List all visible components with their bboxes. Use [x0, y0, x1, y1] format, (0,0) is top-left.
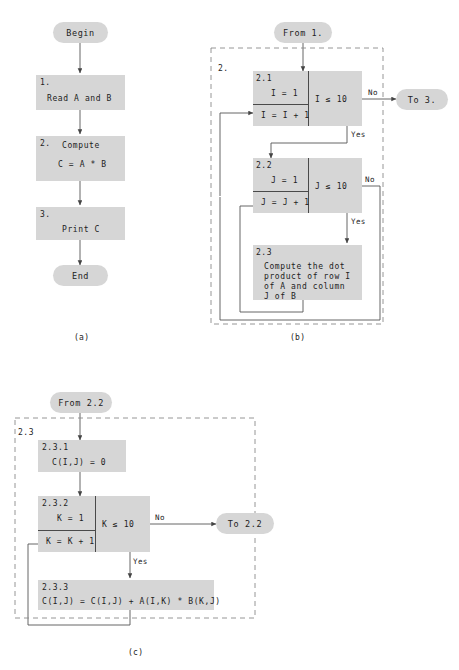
loop-2-1-number: 2.1 [256, 74, 272, 83]
process-2-3-1-text: C(I,J) = 0 [52, 457, 106, 468]
connector-from-1: From 1. [274, 22, 332, 43]
process-1-text: Read A and B [47, 93, 112, 104]
process-2-3-3-text: C(I,J) = C(I,J) + A(I,K) * B(K,J) [42, 596, 221, 607]
process-1-number: 1. [40, 78, 51, 87]
loop-2-2-no-label: No [365, 175, 375, 184]
process-2-line2: C = A * B [58, 159, 107, 170]
loop-2-3-2-condition: K ≤ 10 [102, 519, 135, 530]
process-2-number: 2. [40, 139, 51, 148]
process-2-3-line4: J of B [264, 291, 297, 302]
connector-to-2-2: To 2.2 [216, 513, 274, 534]
loop-2-1-yes-label: Yes [351, 130, 366, 139]
loop-2-1-init: I = 1 [271, 88, 298, 99]
caption-b: (b) [290, 333, 305, 342]
loop-2-3-2-init: K = 1 [57, 513, 84, 524]
process-3-text: Print C [62, 224, 100, 235]
loop-2-2-init: J = 1 [271, 175, 298, 186]
loop-box-2-2-horizontal-divider [253, 191, 309, 192]
loop-2-2-condition: J ≤ 10 [315, 181, 348, 192]
connector-to-2-2-label: To 2.2 [228, 519, 262, 529]
terminator-end-label: End [72, 271, 89, 281]
loop-2-3-2-no-label: No [155, 513, 165, 522]
loop-2-2-number: 2.2 [256, 161, 272, 170]
loop-2-1-condition: I ≤ 10 [315, 94, 348, 105]
loop-2-1-increment: I = I + 1 [261, 110, 310, 121]
edge-loop-to-i-increment [220, 113, 253, 196]
terminator-begin-label: Begin [66, 28, 95, 38]
connector-to-3: To 3. [396, 89, 448, 110]
loop-box-2-1-horizontal-divider [253, 104, 309, 105]
loop-2-2-increment: J = J + 1 [261, 197, 310, 208]
terminator-begin: Begin [53, 22, 108, 43]
loop-2-3-2-increment: K = K + 1 [46, 536, 95, 547]
group-label-2: 2. [218, 64, 229, 73]
process-2-3-1-number: 2.3.1 [42, 443, 69, 452]
loop-box-2-3-2-vertical-divider [95, 496, 96, 552]
process-3-number: 3. [40, 210, 51, 219]
loop-2-3-2-number: 2.3.2 [42, 499, 69, 508]
loop-2-3-2-yes-label: Yes [133, 557, 148, 566]
loop-2-2-yes-label: Yes [351, 217, 366, 226]
connector-from-2-2: From 2.2 [50, 392, 112, 413]
connector-from-1-label: From 1. [283, 28, 323, 38]
edge-21-yes-to-22 [271, 126, 347, 158]
process-2-3-number: 2.3 [256, 248, 272, 257]
loop-2-1-no-label: No [368, 88, 378, 97]
connector-from-2-2-label: From 2.2 [58, 398, 104, 408]
caption-c: (c) [128, 648, 143, 657]
group-label-2-3: 2.3 [18, 428, 34, 437]
process-2-line1: Compute [62, 140, 100, 151]
terminator-end: End [53, 265, 108, 286]
process-2-3-3-number: 2.3.3 [42, 583, 69, 592]
connector-to-3-label: To 3. [408, 95, 437, 105]
caption-a: (a) [74, 333, 89, 342]
loop-box-2-3-2-horizontal-divider [38, 530, 96, 531]
